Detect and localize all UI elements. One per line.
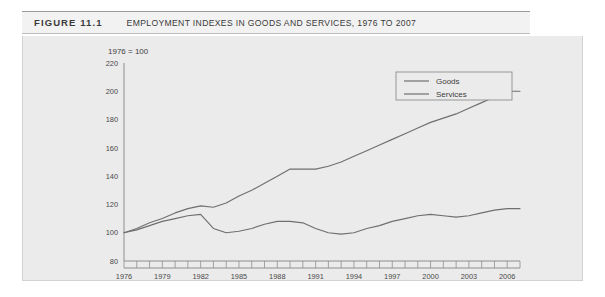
- figure-title-text: EMPLOYMENT INDEXES IN GOODS AND SERVICES…: [127, 18, 417, 28]
- figure-number-label: FIGURE 11.1: [34, 17, 103, 28]
- figure-title-bar: FIGURE 11.1 EMPLOYMENT INDEXES IN GOODS …: [22, 11, 530, 34]
- figure-container: FIGURE 11.1 EMPLOYMENT INDEXES IN GOODS …: [0, 0, 605, 297]
- figure-panel: [22, 36, 583, 281]
